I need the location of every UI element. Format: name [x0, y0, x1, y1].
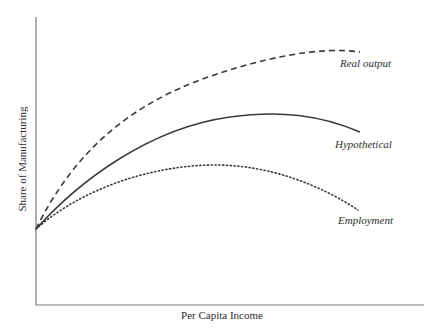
- chart-canvas: Real output Hypothetical Employment Per …: [0, 0, 444, 330]
- employment-curve: [36, 165, 358, 229]
- chart-plot: [0, 0, 444, 330]
- real-output-curve: [36, 50, 360, 229]
- real-output-label: Real output: [340, 57, 391, 69]
- y-axis-label: Share of Manufacturing: [16, 97, 28, 221]
- employment-label: Employment: [338, 214, 393, 226]
- x-axis-label: Per Capita Income: [172, 309, 272, 321]
- hypothetical-curve: [36, 114, 360, 229]
- hypothetical-label: Hypothetical: [335, 138, 392, 150]
